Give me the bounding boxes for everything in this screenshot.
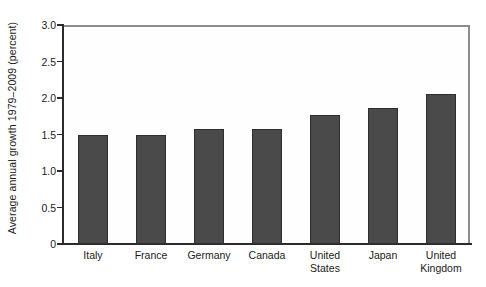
y-axis-tick-label: 2.0 [41, 92, 56, 104]
bar [78, 135, 108, 245]
bar [252, 129, 282, 244]
y-axis-tick-mark [57, 97, 63, 99]
x-axis-category-label-line: States [296, 262, 354, 275]
x-axis-category-label: UnitedStates [296, 249, 354, 275]
y-axis-tick-label: 0.5 [41, 202, 56, 214]
y-axis-tick-mark [57, 243, 63, 245]
bar [136, 135, 166, 244]
bar [368, 108, 398, 244]
bars-layer [64, 25, 470, 244]
bar [426, 94, 456, 244]
y-axis-tick-label: 2.5 [41, 56, 56, 68]
x-axis-category-label-line: Canada [249, 249, 286, 261]
x-axis-category-label: Japan [354, 249, 412, 262]
y-axis-tick-labels: 00.51.01.52.02.53.0 [24, 0, 60, 287]
x-axis-category-label-line: Kingdom [412, 262, 470, 275]
x-axis-category-label-line: Italy [83, 249, 102, 261]
x-axis-category-labels: ItalyFranceGermanyCanadaUnitedStatesJapa… [64, 249, 470, 287]
x-axis-category-label-line: France [135, 249, 168, 261]
y-axis-tick-mark [57, 207, 63, 209]
y-axis-title: Average annual growth 1979–2009 (percent… [0, 0, 24, 255]
x-axis-category-label: Italy [64, 249, 122, 262]
x-axis-category-label: Germany [180, 249, 238, 262]
y-axis-tick-label: 3.0 [41, 19, 56, 31]
x-axis-category-label: Canada [238, 249, 296, 262]
y-axis-tick-mark [57, 24, 63, 26]
y-axis-tick-label: 1.0 [41, 165, 56, 177]
y-axis-tick-mark [57, 134, 63, 136]
bar [194, 129, 224, 244]
y-axis-title-text: Average annual growth 1979–2009 (percent… [6, 21, 18, 233]
x-axis-category-label-line: United [310, 249, 340, 261]
bar-chart-figure: Average annual growth 1979–2009 (percent… [0, 0, 486, 287]
x-axis-category-label: UnitedKingdom [412, 249, 470, 275]
x-axis-category-label-line: Germany [187, 249, 230, 261]
x-axis-category-label-line: Japan [369, 249, 398, 261]
bar [310, 115, 340, 244]
x-axis-category-label-line: United [426, 249, 456, 261]
y-axis-tick-label: 0 [50, 238, 56, 250]
y-axis-tick-label: 1.5 [41, 129, 56, 141]
y-axis-tick-mark [57, 61, 63, 63]
y-axis-tick-mark [57, 170, 63, 172]
x-axis-category-label: France [122, 249, 180, 262]
